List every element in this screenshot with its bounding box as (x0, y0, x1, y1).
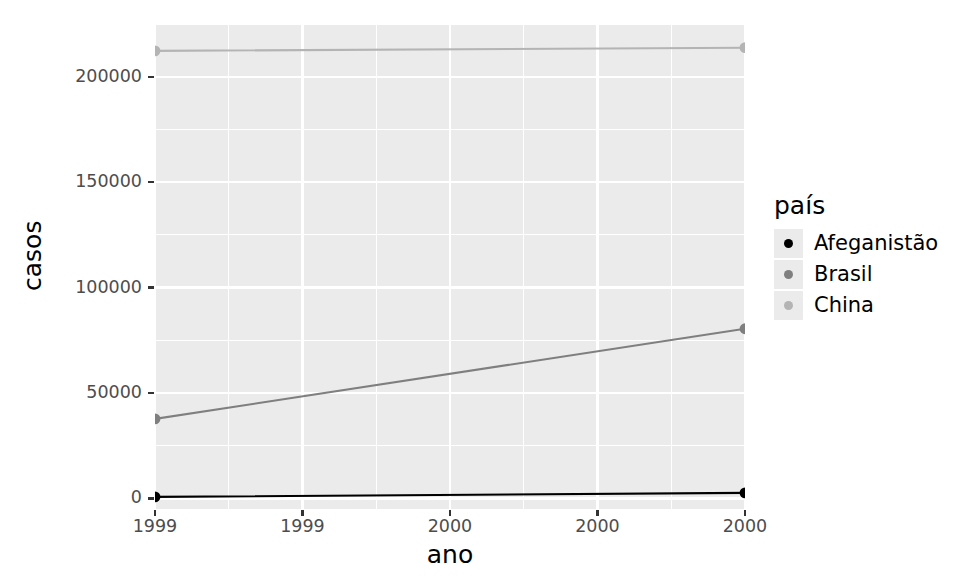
x-tick-label: 2000 (405, 518, 495, 536)
legend-entry-label: Brasil (814, 264, 873, 285)
x-axis-title: ano (155, 541, 745, 569)
legend-entry-label: China (814, 295, 874, 316)
x-tick-mark (449, 510, 451, 516)
legend: país AfeganistãoBrasilChina (774, 192, 938, 322)
point-marker-icon (784, 301, 793, 310)
x-tick-label: 2000 (553, 518, 643, 536)
y-tick-label: 200000 (75, 68, 142, 86)
legend-entry[interactable]: Afeganistão (774, 229, 938, 258)
data-point (155, 413, 160, 424)
data-point (155, 45, 160, 56)
legend-title: país (774, 192, 938, 220)
legend-entry-label: Afeganistão (814, 233, 938, 254)
legend-entry[interactable]: Brasil (774, 260, 938, 289)
series-line (155, 493, 745, 497)
x-tick-label: 2000 (700, 518, 790, 536)
data-point (740, 487, 745, 498)
data-point (155, 491, 160, 502)
series-group (155, 323, 745, 424)
y-tick-mark (148, 181, 154, 183)
y-tick-mark (148, 392, 154, 394)
plot-panel (155, 24, 745, 509)
x-tick-mark (154, 510, 156, 516)
data-point (740, 42, 745, 53)
series-group (155, 487, 745, 502)
point-marker-icon (784, 239, 793, 248)
y-tick-mark (148, 286, 154, 288)
y-tick-label: 150000 (75, 173, 142, 191)
series-line (155, 329, 745, 419)
y-tick-label: 50000 (86, 384, 142, 402)
x-tick-mark (596, 510, 598, 516)
y-axis-title: casos (19, 196, 47, 316)
y-tick-label: 100000 (75, 279, 142, 297)
x-tick-mark (744, 510, 746, 516)
point-marker-icon (784, 270, 793, 279)
legend-key (774, 229, 803, 258)
legend-entry[interactable]: China (774, 291, 938, 320)
legend-key (774, 260, 803, 289)
series-line (155, 48, 745, 51)
legend-entries: AfeganistãoBrasilChina (774, 229, 938, 320)
legend-key (774, 291, 803, 320)
x-tick-label: 1999 (258, 518, 348, 536)
data-layer (155, 24, 745, 509)
y-tick-label: 0 (131, 489, 142, 507)
x-tick-mark (301, 510, 303, 516)
line-chart: 050000100000150000200000 199919992000200… (0, 0, 976, 582)
x-tick-label: 1999 (110, 518, 200, 536)
data-point (740, 323, 745, 334)
y-tick-mark (148, 497, 154, 499)
y-tick-mark (148, 76, 154, 78)
series-group (155, 42, 745, 56)
